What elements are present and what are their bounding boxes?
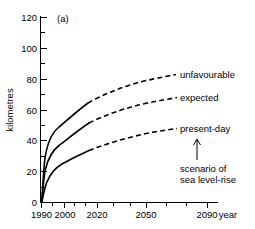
y-label-80: 80 [26,74,37,85]
label-expected: expected [180,92,219,103]
y-label-0: 0 [32,197,37,208]
x-axis-unit-label: year [219,209,237,220]
series-labels-group: unfavourable expected present-day [180,69,235,134]
y-label-60: 60 [26,105,37,116]
x-label-1990: 1990 [31,209,52,220]
up-arrow-icon [194,139,201,160]
x-axis-tick-labels: 1990 2000 2020 2050 2090 year [31,209,237,220]
series-present-day-dashed [89,129,177,151]
annotation-line-1: scenario of [180,163,227,174]
y-axis-title: kilometres [4,88,15,132]
x-axis-major-ticks [42,203,208,209]
x-label-2000: 2000 [54,209,75,220]
series-expected-dashed [89,98,177,124]
series-unfavourable-dashed [88,75,176,104]
annotation-line-2: sea level-rise [180,174,236,185]
x-axis-minor-ticks [52,203,186,207]
series-unfavourable-solid [42,103,88,203]
label-present-day: present-day [180,123,230,134]
series-unfavourable [42,75,176,203]
figure-panel-a: 120 100 80 60 40 20 0 kilometres [0,0,255,229]
y-label-100: 100 [21,43,37,54]
y-label-40: 40 [26,135,37,146]
panel-label: (a) [57,13,69,24]
series-present-day [42,129,177,203]
x-label-2050: 2050 [135,209,156,220]
sea-level-rise-line-chart: 120 100 80 60 40 20 0 kilometres [0,0,255,229]
y-axis-tick-labels: 120 100 80 60 40 20 0 [21,12,37,208]
x-label-2020: 2020 [86,209,107,220]
x-label-2090: 2090 [196,209,217,220]
label-unfavourable: unfavourable [180,69,235,80]
series-expected [42,98,177,203]
y-label-120: 120 [21,12,37,23]
annotation-scenario: scenario of sea level-rise [180,139,236,185]
y-label-20: 20 [26,166,37,177]
